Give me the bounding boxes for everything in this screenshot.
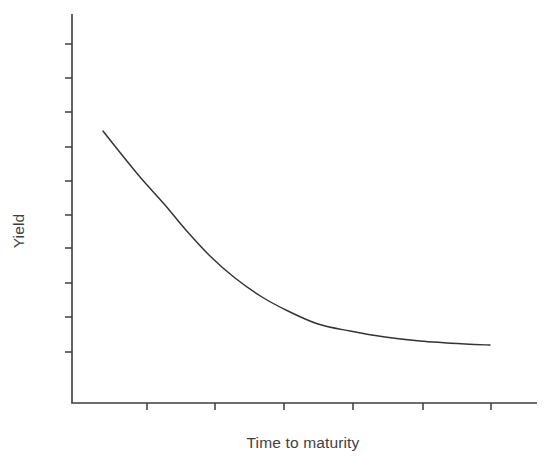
x-axis-title: Time to maturity	[0, 434, 554, 452]
yield-curve-figure: Yield Time to maturity	[0, 0, 554, 472]
x-axis-ticks	[147, 403, 491, 410]
plot-area	[0, 0, 554, 472]
y-axis-title-text: Yield	[10, 214, 28, 249]
y-axis-ticks	[65, 44, 72, 352]
yield-curve-line	[103, 131, 490, 345]
y-axis-title: Yield	[0, 0, 56, 472]
x-axis-title-text: Time to maturity	[247, 434, 360, 451]
